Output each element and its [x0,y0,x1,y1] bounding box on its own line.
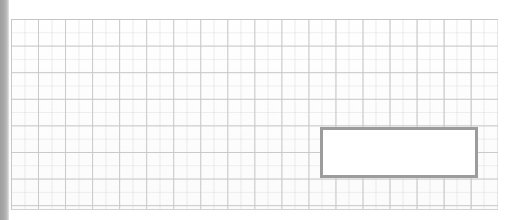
right-margin [498,0,511,220]
bottom-margin [9,210,511,220]
grid-top-border [11,19,498,20]
grid-minor-lines [11,19,498,210]
highlighted-rectangle[interactable] [320,127,478,178]
left-scan-shadow [0,0,9,220]
top-margin [9,0,511,19]
scanned-grid-document [0,0,511,220]
